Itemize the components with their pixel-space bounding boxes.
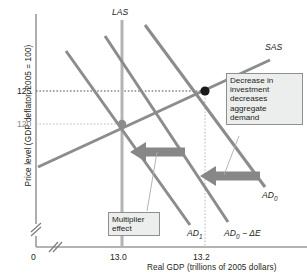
las-label: LAS xyxy=(112,7,128,17)
multiplier-effect-callout: Multiplier effect xyxy=(108,212,160,236)
sas-label: SAS xyxy=(265,42,282,52)
multiplier-callout-leader xyxy=(147,152,157,211)
x-tick-13-0: 13.0 xyxy=(110,252,127,262)
ad0-label-sub: 0 xyxy=(274,195,278,202)
ad0-minus-de-label: AD0 − ΔE xyxy=(224,228,261,240)
decrease-in-investment-callout: Decrease in investment decreases aggrega… xyxy=(226,73,303,125)
x-tick-13-2: 13.2 xyxy=(193,252,210,262)
ad0-minus-de-base: AD xyxy=(224,228,236,238)
aggregate-demand-supply-chart: Price level (GDP deflator, 2005 = 100) R… xyxy=(0,0,307,276)
y-tick-120: 120 xyxy=(17,119,31,129)
ad0-label: AD0 xyxy=(262,190,278,202)
x-tick-zero: 0 xyxy=(31,252,36,262)
ad1-label: AD1 xyxy=(187,228,203,240)
y-axis-title: Price level (GDP deflator, 2005 = 100) xyxy=(24,36,33,196)
ad1-label-base: AD xyxy=(187,228,199,238)
ad1-label-sub: 1 xyxy=(199,233,203,240)
y-tick-125: 125 xyxy=(17,86,31,96)
initial-equilibrium-dot xyxy=(200,86,209,95)
new-equilibrium-dot xyxy=(118,120,126,128)
x-axis-title: Real GDP (trillions of 2005 dollars) xyxy=(147,263,277,272)
ad0-label-base: AD xyxy=(262,190,274,200)
ad0-minus-de-suffix: − ΔE xyxy=(240,228,261,238)
y-axis-break-icon xyxy=(31,223,41,236)
